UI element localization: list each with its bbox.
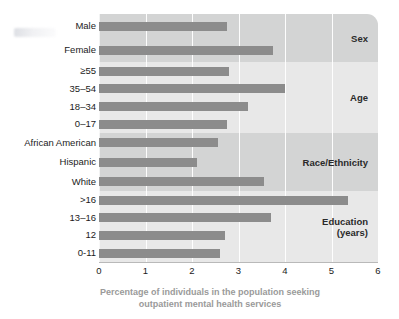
category-label: Hispanic — [0, 157, 96, 167]
bar — [99, 158, 197, 167]
group-label: Education (years) — [322, 216, 368, 238]
plot-area: SexAgeRace/EthnicityEducation (years) — [99, 14, 378, 262]
x-tick-label: 6 — [367, 265, 389, 276]
x-tick-label: 0 — [88, 265, 110, 276]
x-tick-label: 1 — [135, 265, 157, 276]
bar — [99, 120, 227, 129]
category-label: 18–34 — [0, 102, 96, 112]
category-label: Male — [0, 21, 96, 31]
category-label: 35–54 — [0, 84, 96, 94]
bar — [99, 213, 271, 222]
category-label: 13–16 — [0, 213, 96, 223]
group-label: Sex — [351, 33, 368, 44]
x-axis-title-line-1: Percentage of individuals in the populat… — [60, 287, 360, 299]
gridline — [285, 14, 286, 262]
category-label: 0–17 — [0, 119, 96, 129]
bar — [99, 22, 227, 31]
category-axis-labels: MaleFemale≥5535–5418–340–17African Ameri… — [0, 14, 96, 262]
bar — [99, 196, 348, 205]
bar — [99, 67, 229, 76]
bar — [99, 249, 220, 258]
category-label: >16 — [0, 195, 96, 205]
bar-chart-figure: MaleFemale≥5535–5418–340–17African Ameri… — [0, 0, 399, 319]
bar — [99, 231, 225, 240]
bar — [99, 138, 218, 147]
category-label: ≥55 — [0, 66, 96, 76]
category-label: 12 — [0, 230, 96, 240]
x-tick-label: 2 — [181, 265, 203, 276]
group-label: Age — [350, 92, 368, 103]
category-label: African American — [0, 138, 96, 148]
x-tick-label: 3 — [228, 265, 250, 276]
bar — [99, 46, 273, 55]
x-tick-label: 4 — [274, 265, 296, 276]
x-axis-line — [99, 262, 378, 263]
bar — [99, 177, 264, 186]
bar — [99, 84, 285, 93]
bar — [99, 102, 248, 111]
x-axis-title-line-2: outpatient mental health services — [60, 299, 360, 311]
category-label: 0-11 — [0, 248, 96, 258]
x-axis-title: Percentage of individuals in the populat… — [60, 287, 360, 310]
x-tick-label: 5 — [321, 265, 343, 276]
category-label: Female — [0, 45, 96, 55]
category-label: White — [0, 177, 96, 187]
group-label: Race/Ethnicity — [303, 157, 368, 168]
